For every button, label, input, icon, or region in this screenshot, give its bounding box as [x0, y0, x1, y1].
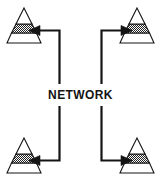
pyramid-top-right-tier-base — [120, 33, 154, 43]
pyramid-top-left[interactable] — [7, 8, 41, 43]
pyramid-bottom-right[interactable] — [120, 138, 154, 173]
pyramid-bottom-left-tier-apex — [16, 138, 32, 154]
pyramid-top-right[interactable] — [120, 8, 154, 43]
pyramid-top-left-tier-base — [7, 33, 41, 43]
pyramid-bottom-left[interactable] — [7, 138, 41, 173]
pyramid-bottom-left-tier-base — [7, 163, 41, 173]
arrow-network-to-bottom-left-shaft — [39, 106, 60, 161]
arrow-network-to-top-left-shaft — [39, 31, 60, 85]
arrow-network-to-bottom-right-shaft — [102, 106, 123, 161]
network-center-label: NETWORK — [0, 88, 161, 102]
pyramid-top-right-tier-apex — [129, 8, 145, 24]
pyramid-bottom-right-tier-base — [120, 163, 154, 173]
pyramid-top-left-tier-apex — [16, 8, 32, 24]
pyramid-bottom-right-tier-apex — [129, 138, 145, 154]
arrow-network-to-top-right-shaft — [102, 31, 123, 85]
network-diagram: NETWORK — [0, 0, 161, 189]
